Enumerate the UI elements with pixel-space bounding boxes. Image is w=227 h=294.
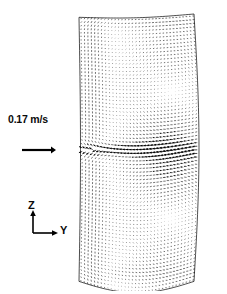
vector-arrows-group	[79, 16, 197, 291]
velocity-vector-field-plot	[70, 6, 205, 291]
axis-orientation-indicator: Z Y	[27, 200, 75, 244]
axis-label-y: Y	[60, 224, 67, 236]
plot-title: Velocity vector field	[0, 0, 1, 1]
figure-canvas: 0.17 m/s Z Y Velocity vector field	[0, 0, 227, 294]
scale-legend-label: 0.17 m/s	[8, 113, 78, 125]
reference-vector-arrow	[22, 141, 62, 151]
axis-label-z: Z	[28, 199, 35, 211]
